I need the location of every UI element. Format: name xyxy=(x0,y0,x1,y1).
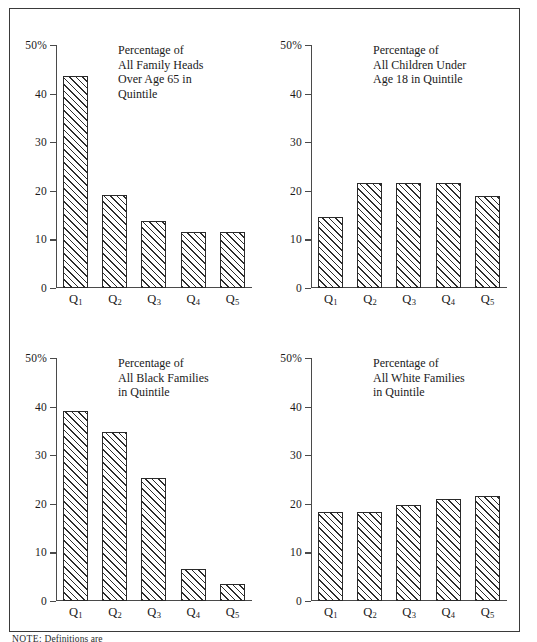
bar[interactable] xyxy=(436,183,461,288)
x-axis-labels: Q1Q2Q3Q4Q5 xyxy=(311,601,507,623)
bar[interactable] xyxy=(102,195,127,288)
bar-slot xyxy=(102,358,127,601)
bar-slot xyxy=(396,45,421,288)
note-text: Definitions are xyxy=(44,634,102,642)
y-axis-tick-label: 50% xyxy=(25,352,47,364)
x-axis-tick-label: Q1 xyxy=(318,292,343,307)
x-axis-tick-label: Q4 xyxy=(181,292,206,307)
bar[interactable] xyxy=(436,499,461,601)
y-axis-tick-label: 0 xyxy=(296,595,302,607)
plot-area-white-families: 50%403020100 Q1Q2Q3Q4Q5 xyxy=(311,358,507,601)
bar-slot xyxy=(220,45,245,288)
y-axis-tick-label: 0 xyxy=(41,595,47,607)
bar[interactable] xyxy=(220,584,245,601)
bar-slot xyxy=(220,358,245,601)
y-axis-tick-label: 30 xyxy=(35,136,47,148)
bar[interactable] xyxy=(318,512,343,601)
plot-area-family-heads-over-65: 50%403020100 Q1Q2Q3Q4Q5 xyxy=(56,45,252,288)
bar-slot xyxy=(63,358,88,601)
y-axis-tick-label: 20 xyxy=(290,498,302,510)
x-axis-tick-label: Q4 xyxy=(436,605,461,620)
y-axis-tick-label: 20 xyxy=(35,185,47,197)
x-axis-tick-label: Q5 xyxy=(475,605,500,620)
panel-white-families: Percentage of All White Families in Quin… xyxy=(265,336,520,636)
x-axis-tick-label: Q3 xyxy=(141,605,166,620)
bar-group-white-families xyxy=(311,358,507,601)
x-axis-tick-label: Q2 xyxy=(357,292,382,307)
y-axis-tick-label: 0 xyxy=(41,282,47,294)
bar-slot xyxy=(396,358,421,601)
bar-group-children-under-18 xyxy=(311,45,507,288)
bar-slot xyxy=(141,45,166,288)
bar-slot xyxy=(357,358,382,601)
figure-frame: Percentage of All Family Heads Over Age … xyxy=(9,8,520,632)
x-axis-tick-label: Q3 xyxy=(396,605,421,620)
bar[interactable] xyxy=(357,183,382,288)
bar[interactable] xyxy=(396,183,421,288)
bar-slot xyxy=(141,358,166,601)
x-axis-tick-label: Q1 xyxy=(63,292,88,307)
y-axis-tick-label: 10 xyxy=(290,546,302,558)
y-axis-tick-label: 40 xyxy=(290,401,302,413)
bar[interactable] xyxy=(102,432,127,601)
bar-slot xyxy=(475,45,500,288)
bar[interactable] xyxy=(141,478,166,601)
bar-group-family-heads-over-65 xyxy=(56,45,252,288)
bar-group-black-families xyxy=(56,358,252,601)
y-axis-tick-label: 30 xyxy=(290,136,302,148)
x-axis-tick-label: Q2 xyxy=(102,605,127,620)
bar-slot xyxy=(102,45,127,288)
bar[interactable] xyxy=(475,496,500,601)
x-axis-tick-label: Q3 xyxy=(141,292,166,307)
bar-slot xyxy=(181,45,206,288)
x-axis-tick-label: Q3 xyxy=(396,292,421,307)
bar[interactable] xyxy=(63,76,88,288)
y-axis-tick-label: 40 xyxy=(290,88,302,100)
bar[interactable] xyxy=(181,569,206,601)
bar[interactable] xyxy=(181,232,206,288)
bar[interactable] xyxy=(220,232,245,288)
bar-slot xyxy=(436,358,461,601)
x-axis-labels: Q1Q2Q3Q4Q5 xyxy=(56,288,252,310)
y-axis-tick-label: 10 xyxy=(35,233,47,245)
x-axis-tick-label: Q4 xyxy=(181,605,206,620)
bar[interactable] xyxy=(396,505,421,601)
bar-slot xyxy=(475,358,500,601)
x-axis-tick-label: Q1 xyxy=(63,605,88,620)
bar[interactable] xyxy=(475,196,500,288)
y-axis-tick-label: 50% xyxy=(280,352,302,364)
bar[interactable] xyxy=(318,217,343,288)
y-axis-tick-label: 0 xyxy=(296,282,302,294)
x-axis-labels: Q1Q2Q3Q4Q5 xyxy=(56,601,252,623)
y-axis-tick-label: 30 xyxy=(290,449,302,461)
x-axis-tick-label: Q5 xyxy=(220,605,245,620)
panel-children-under-18: Percentage of All Children Under Age 18 … xyxy=(265,23,520,323)
x-axis-tick-label: Q1 xyxy=(318,605,343,620)
y-axis-tick-label: 50% xyxy=(280,39,302,51)
y-axis-tick-label: 20 xyxy=(35,498,47,510)
bar[interactable] xyxy=(63,411,88,601)
bar-slot xyxy=(436,45,461,288)
x-axis-tick-label: Q5 xyxy=(220,292,245,307)
x-axis-tick-label: Q2 xyxy=(357,605,382,620)
bar-slot xyxy=(318,358,343,601)
note-label: NOTE: xyxy=(12,634,42,642)
bar[interactable] xyxy=(141,221,166,288)
x-axis-labels: Q1Q2Q3Q4Q5 xyxy=(311,288,507,310)
y-axis-tick-label: 20 xyxy=(290,185,302,197)
y-axis-tick-label: 50% xyxy=(25,39,47,51)
panel-family-heads-over-65: Percentage of All Family Heads Over Age … xyxy=(10,23,265,323)
y-axis-tick-label: 40 xyxy=(35,401,47,413)
bar-slot xyxy=(181,358,206,601)
figure-note: NOTE: Definitions are xyxy=(12,634,103,642)
bar-slot xyxy=(318,45,343,288)
panel-black-families: Percentage of All Black Families in Quin… xyxy=(10,336,265,636)
bar-slot xyxy=(357,45,382,288)
plot-area-black-families: 50%403020100 Q1Q2Q3Q4Q5 xyxy=(56,358,252,601)
y-axis-tick-label: 30 xyxy=(35,449,47,461)
y-axis-tick-label: 10 xyxy=(35,546,47,558)
x-axis-tick-label: Q5 xyxy=(475,292,500,307)
bar[interactable] xyxy=(357,512,382,601)
x-axis-tick-label: Q4 xyxy=(436,292,461,307)
plot-area-children-under-18: 50%403020100 Q1Q2Q3Q4Q5 xyxy=(311,45,507,288)
